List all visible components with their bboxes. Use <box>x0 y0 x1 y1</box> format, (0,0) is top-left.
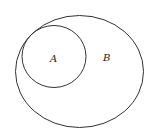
set-b-label: B <box>102 52 110 63</box>
set-a-label: A <box>49 53 57 64</box>
venn-diagram: A B <box>0 0 154 138</box>
